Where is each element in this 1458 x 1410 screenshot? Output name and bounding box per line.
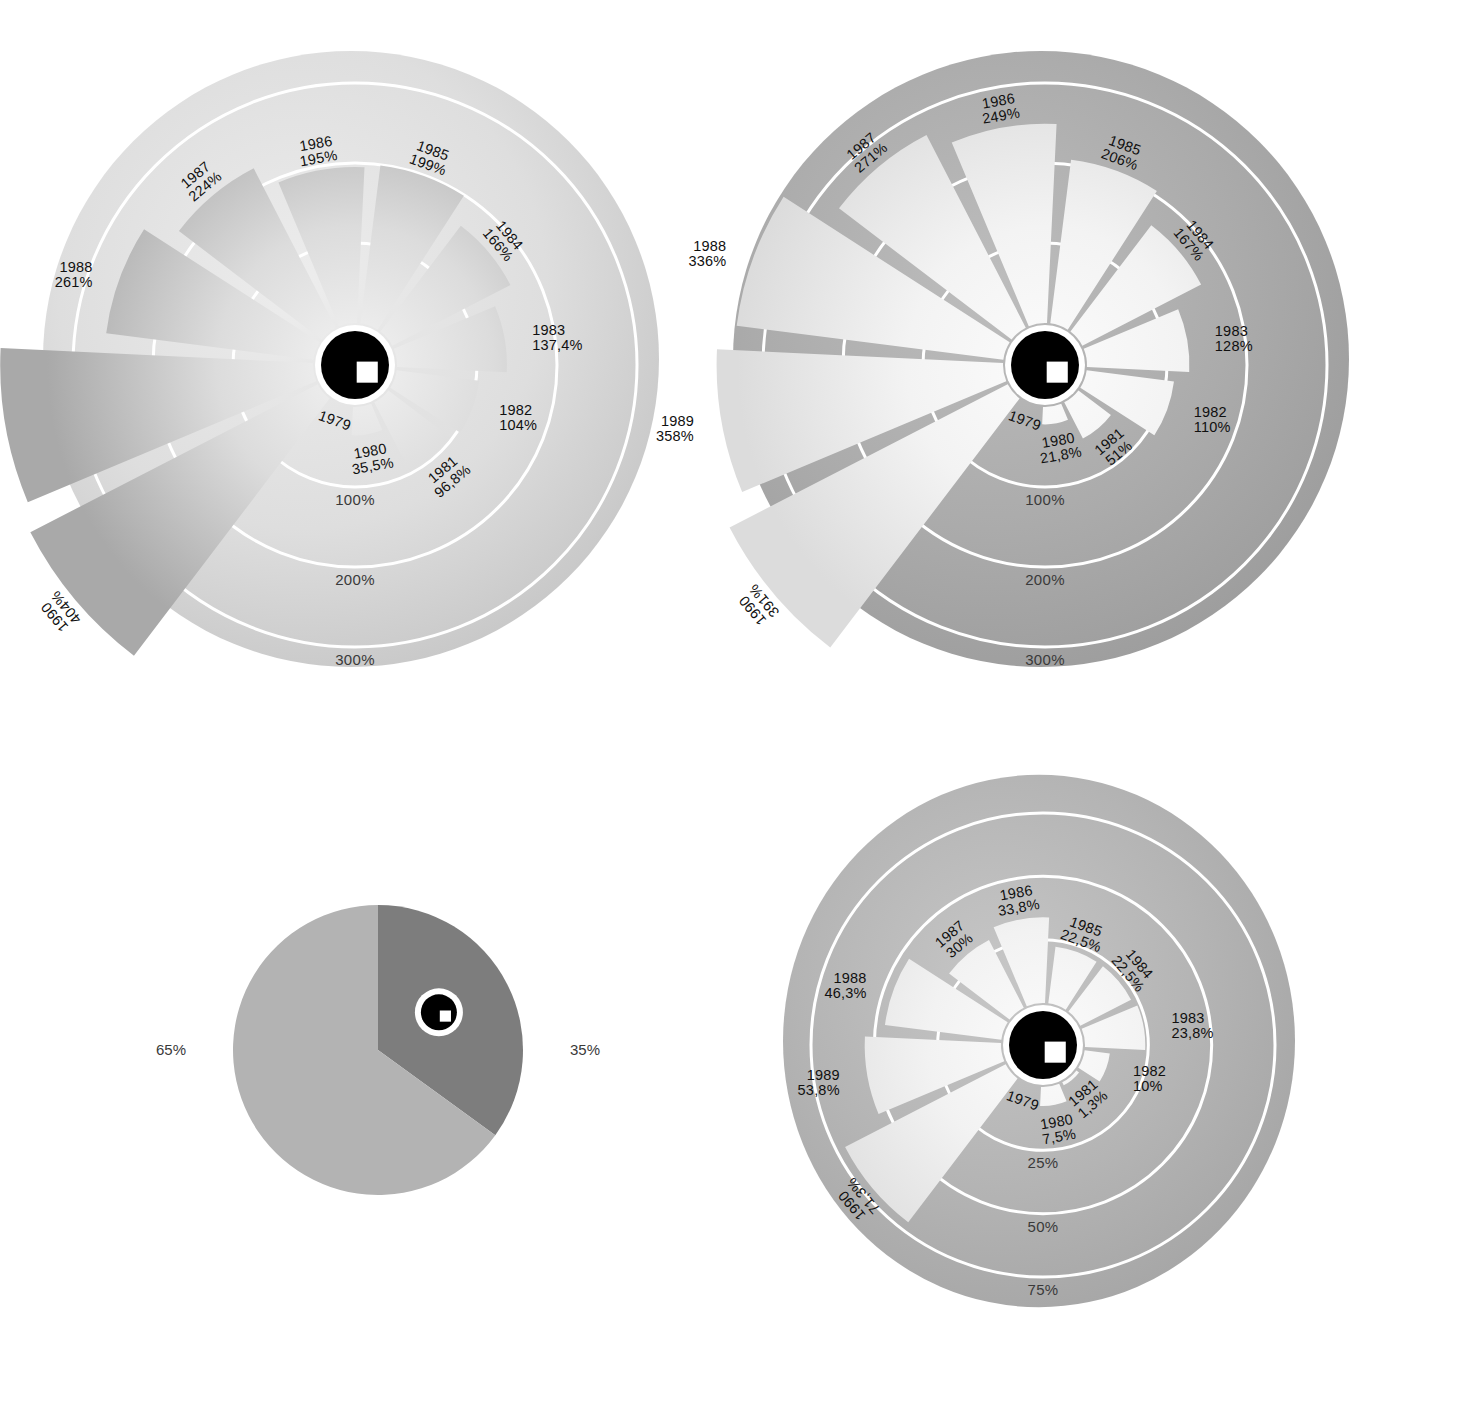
wedge-label-year: 1988 (834, 970, 867, 986)
wedge-label-1988: 1988336% (688, 238, 726, 269)
radial-tick-200pct: 200% (1025, 571, 1065, 588)
wedge-label-value: 110% (1194, 419, 1231, 435)
wedge-label-value: 46,3% (825, 985, 867, 1001)
polar-chart-top-left: 1979198035,5%198196,8%1982104%1983137,4%… (0, 0, 740, 790)
wedge-label-1980: 19807,5% (1038, 1111, 1077, 1147)
infographic-canvas: 1979198035,5%198196,8%1982104%1983137,4%… (0, 0, 1458, 1410)
hub-white-square (357, 362, 378, 383)
wedge-label-1988: 1988261% (55, 259, 93, 290)
wedge-label-value: 10% (1133, 1078, 1163, 1094)
wedge-label-value: 53,8% (798, 1082, 840, 1098)
radial-tick-25pct: 25% (1028, 1154, 1059, 1171)
chart-hub-logo (1005, 325, 1085, 405)
wedge-label-1983: 1983128% (1215, 323, 1253, 354)
wedge-label-value: 128% (1215, 338, 1253, 354)
hub-white-square (1045, 1042, 1066, 1063)
wedge-label-1989: 1989358% (656, 413, 694, 444)
hub-white-square (440, 1011, 451, 1022)
wedge-label-year: 1983 (532, 322, 565, 338)
wedge-label-year: 1982 (499, 402, 532, 418)
radial-tick-100pct: 100% (1025, 491, 1065, 508)
wedge-label-value: 358% (656, 428, 694, 444)
hub-black-disc (1009, 1011, 1077, 1079)
wedge-label-1982: 198210% (1133, 1063, 1166, 1094)
chart-hub-logo (315, 325, 395, 405)
hub-black-disc (1011, 331, 1079, 399)
radial-tick-300pct: 300% (335, 651, 375, 668)
hub-black-disc (321, 331, 389, 399)
hub-white-square (1047, 362, 1068, 383)
polar-chart-bottom-right: 197919807,5%19811,3%198210%198323,8%1984… (720, 770, 1458, 1410)
wedge-label-year: 1982 (1194, 404, 1227, 420)
wedge-label-year: 1989 (807, 1067, 840, 1083)
wedge-label-year: 1983 (1215, 323, 1248, 339)
wedge-label-year: 1988 (693, 238, 726, 254)
pie-label-right: 35% (570, 1041, 600, 1058)
polar-chart-top-right: 1979198021,8%198151%1982110%1983128%1984… (700, 0, 1458, 790)
wedge-label-value: 336% (688, 253, 726, 269)
radial-tick-200pct: 200% (335, 571, 375, 588)
radial-tick-50pct: 50% (1028, 1218, 1059, 1235)
wedge-label-value: 104% (499, 417, 537, 433)
wedge-label-1982: 1982110% (1194, 404, 1231, 435)
radial-tick-300pct: 300% (1025, 651, 1065, 668)
wedge-label-year: 1983 (1171, 1010, 1204, 1026)
chart-hub-logo (415, 988, 463, 1036)
hub-black-disc (421, 994, 457, 1030)
radial-tick-75pct: 75% (1028, 1281, 1059, 1298)
chart-hub-logo (1003, 1005, 1083, 1085)
wedge-label-value: 23,8% (1171, 1025, 1213, 1041)
wedge-label-value: 137,4% (532, 337, 582, 353)
wedge-label-year: 1982 (1133, 1063, 1166, 1079)
wedge-label-1982: 1982104% (499, 402, 537, 433)
pie-chart-bottom-left: 65%35% (120, 850, 640, 1250)
wedge-label-year: 1989 (661, 413, 694, 429)
radial-tick-100pct: 100% (335, 491, 375, 508)
pie-label-left: 65% (156, 1041, 186, 1058)
wedge-label-year: 1988 (60, 259, 93, 275)
wedge-label-value: 261% (55, 274, 93, 290)
pie-slices (233, 905, 523, 1195)
